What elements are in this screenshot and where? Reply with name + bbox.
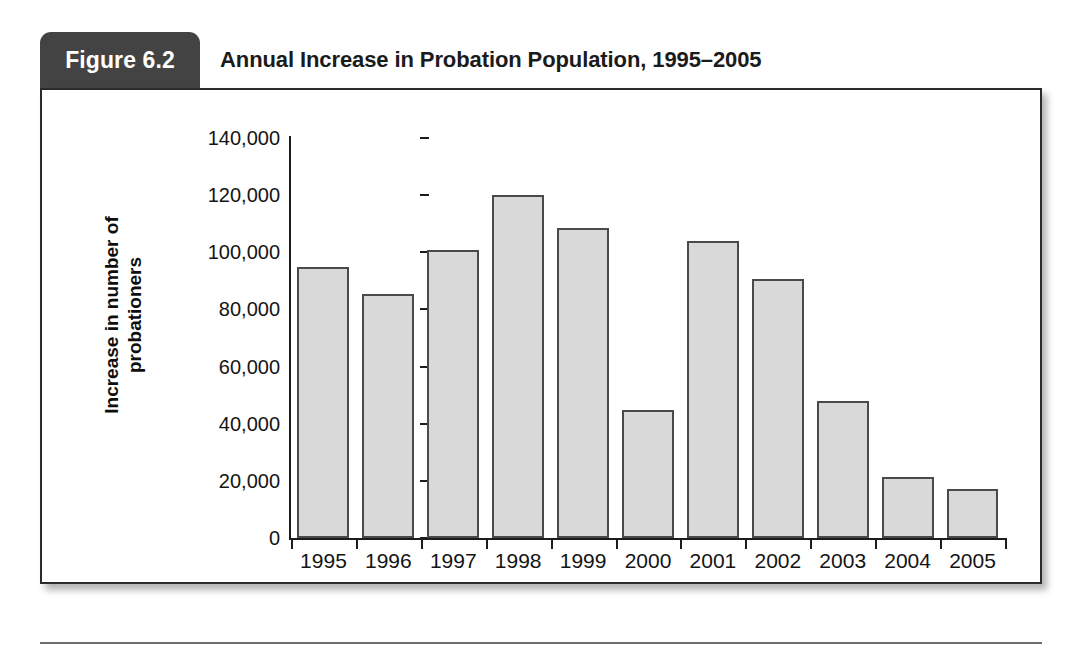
bar-1996[interactable] (362, 294, 414, 538)
bar-1995[interactable] (297, 267, 349, 538)
y-axis-title: Increase in number of probationers (96, 180, 150, 450)
x-tick-mark (940, 540, 942, 549)
chart-panel: Increase in number of probationers 020,0… (40, 88, 1042, 584)
bars-group (291, 138, 1005, 538)
x-tick-mark (486, 540, 488, 549)
y-tick-label: 140,000 (208, 127, 280, 150)
x-tick-mark (680, 540, 682, 549)
plot-area: Increase in number of probationers 020,0… (42, 90, 1040, 582)
bar-1998[interactable] (492, 195, 544, 538)
y-tick-label: 80,000 (219, 298, 280, 321)
bar-2005[interactable] (947, 489, 999, 538)
bar-slot (616, 138, 681, 538)
x-tick-label: 2003 (819, 549, 866, 573)
y-tick-label: 100,000 (208, 241, 280, 264)
x-tick-mark (1005, 540, 1007, 549)
figure-number-badge: Figure 6.2 (40, 32, 200, 88)
bar-slot (356, 138, 421, 538)
bar-slot (421, 138, 486, 538)
x-axis-labels: 1995199619971998199920002001200220032004… (291, 549, 1005, 579)
x-tick-mark (291, 540, 293, 549)
y-tick-label: 40,000 (219, 412, 280, 435)
y-axis-title-line2: probationers (123, 257, 146, 373)
bar-slot (291, 138, 356, 538)
x-tick-mark (875, 540, 877, 549)
x-tick-mark (810, 540, 812, 549)
bar-2003[interactable] (817, 401, 869, 538)
bar-slot (680, 138, 745, 538)
y-tick-label: 20,000 (219, 469, 280, 492)
y-axis-ticks: 020,00040,00060,00080,000100,000120,0001… (182, 90, 280, 582)
bar-slot (875, 138, 940, 538)
x-tick-mark (551, 540, 553, 549)
bar-2000[interactable] (622, 410, 674, 538)
x-tick-mark (421, 540, 423, 549)
bar-2002[interactable] (752, 279, 804, 538)
x-tick-mark (616, 540, 618, 549)
bottom-divider (40, 642, 1042, 644)
x-tick-label: 2004 (884, 549, 931, 573)
x-tick-mark (745, 540, 747, 549)
x-tick-label: 1999 (560, 549, 607, 573)
bar-1997[interactable] (427, 250, 479, 538)
bar-2001[interactable] (687, 241, 739, 538)
x-tick-label: 1995 (300, 549, 347, 573)
bar-slot (486, 138, 551, 538)
bar-slot (940, 138, 1005, 538)
x-tick-mark (356, 540, 358, 549)
x-tick-label: 2001 (690, 549, 737, 573)
x-tick-label: 1996 (365, 549, 412, 573)
y-axis-title-line1: Increase in number of (100, 216, 123, 413)
bar-1999[interactable] (557, 228, 609, 538)
bar-slot (810, 138, 875, 538)
x-tick-label: 1997 (430, 549, 477, 573)
y-tick-label: 60,000 (219, 355, 280, 378)
figure-container: Figure 6.2 Annual Increase in Probation … (0, 0, 1084, 660)
bar-2004[interactable] (882, 477, 934, 538)
bar-slot (551, 138, 616, 538)
y-tick-label: 0 (269, 527, 280, 550)
x-tick-label: 2000 (625, 549, 672, 573)
figure-title: Annual Increase in Probation Population,… (220, 32, 762, 88)
x-tick-label: 1998 (495, 549, 542, 573)
bar-slot (745, 138, 810, 538)
y-tick-label: 120,000 (208, 184, 280, 207)
x-tick-label: 2005 (949, 549, 996, 573)
figure-header: Figure 6.2 Annual Increase in Probation … (40, 32, 1044, 88)
x-tick-label: 2002 (754, 549, 801, 573)
figure-number-label: Figure 6.2 (65, 47, 175, 74)
